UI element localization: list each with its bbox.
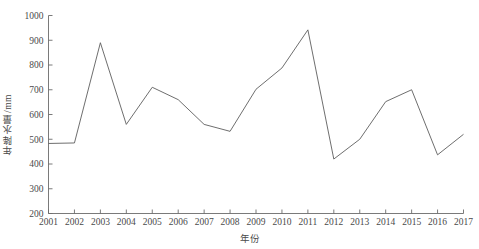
x-tick-label-2006: 2006 [169,217,188,227]
x-axis-title: 年份 [0,231,479,245]
y-tick-label-900: 900 [29,36,44,46]
x-axis-ticks [49,210,464,214]
y-tick-label-300: 300 [29,184,44,194]
x-tick-label-2007: 2007 [195,217,214,227]
x-tick-label-2001: 2001 [39,217,58,227]
x-tick-label-2008: 2008 [221,217,240,227]
x-tick-label-2003: 2003 [91,217,110,227]
x-tick-label-2011: 2011 [299,217,318,227]
x-tick-label-2010: 2010 [272,217,291,227]
x-tick-label-2014: 2014 [376,217,395,227]
y-tick-label-500: 500 [29,135,44,145]
x-tick-label-2004: 2004 [117,217,136,227]
x-tick-label-2012: 2012 [324,217,343,227]
y-tick-label-600: 600 [29,110,44,120]
y-tick-label-400: 400 [29,159,44,169]
x-tick-label-2013: 2013 [350,217,369,227]
x-tick-label-2002: 2002 [65,217,84,227]
axis-lines [49,16,464,214]
y-tick-label-1000: 1000 [25,11,44,21]
y-axis-ticks [49,16,53,214]
x-tick-label-2005: 2005 [143,217,162,227]
plot-area: 2003004005006007008009001000 20012002200… [0,0,479,249]
x-tick-label-2017: 2017 [454,217,473,227]
x-tick-label-2009: 2009 [247,217,266,227]
data-series-line [49,30,464,159]
x-axis-tick-labels: 2001200220032004200520062007200820092010… [39,217,473,227]
y-tick-label-700: 700 [29,85,44,95]
precipitation-line-chart: 年降水量/mm 2003004005006007008009001000 200… [0,0,479,249]
y-tick-label-800: 800 [29,60,44,70]
x-tick-label-2016: 2016 [428,217,447,227]
y-axis-tick-labels: 2003004005006007008009001000 [25,11,44,219]
x-tick-label-2015: 2015 [402,217,421,227]
